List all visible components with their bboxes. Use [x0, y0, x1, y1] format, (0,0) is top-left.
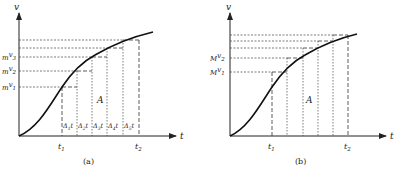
- t2-label-b: t2: [344, 142, 351, 152]
- guide-lines-b: [230, 35, 333, 72]
- velocity-curve-b: [230, 34, 357, 136]
- svg-text:Δ1t: Δ1t: [62, 122, 74, 131]
- caption-b: (b): [295, 157, 306, 166]
- subdivision-lines-b: [287, 35, 333, 136]
- area-label-b: A: [305, 95, 313, 105]
- velocity-curve-a: [19, 32, 153, 136]
- guide-lines-a: [19, 40, 123, 87]
- svg-text:Mv1: Mv1: [209, 66, 225, 77]
- y-label-mv2: mv2: [2, 65, 17, 76]
- figure-a: v t mv1: [2, 2, 184, 166]
- area-label-a: A: [96, 95, 104, 105]
- svg-text:Δ2t: Δ2t: [77, 122, 89, 131]
- y-label-Mv2: Mv2: [209, 52, 225, 63]
- y-axis-label-b: v: [226, 2, 231, 12]
- svg-text:mv2: mv2: [2, 65, 17, 76]
- y-axis-label-a: v: [14, 2, 19, 12]
- delta-labels-a: Δ1t Δ2t Δ3t Δ4t Δ5t: [62, 122, 135, 131]
- t1-label-a: t1: [58, 142, 65, 152]
- y-label-mv1: mv1: [2, 81, 16, 92]
- rectangles-b: [272, 35, 348, 136]
- figure-b: v t Mv1: [209, 2, 394, 166]
- svg-text:Δ4t: Δ4t: [107, 122, 119, 131]
- svg-text:mv1: mv1: [2, 81, 16, 92]
- x-axis-label-a: t: [180, 131, 184, 141]
- svg-text:Mv2: Mv2: [209, 52, 225, 63]
- caption-a: (a): [83, 157, 94, 166]
- svg-text:mv3: mv3: [2, 51, 17, 62]
- t1-label-b: t1: [268, 142, 275, 152]
- svg-text:Δ5t: Δ5t: [123, 122, 135, 131]
- svg-text:Δ3t: Δ3t: [92, 122, 104, 131]
- diagram-canvas: v t mv1: [0, 0, 396, 174]
- y-label-mv3: mv3: [2, 51, 17, 62]
- y-label-Mv1: Mv1: [209, 66, 225, 77]
- t2-label-a: t2: [135, 142, 142, 152]
- x-axis-label-b: t: [390, 131, 394, 141]
